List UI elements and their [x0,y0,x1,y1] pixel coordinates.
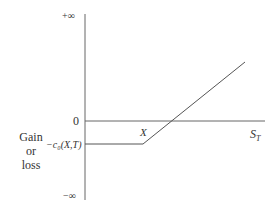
y-tick-zero: 0 [73,115,79,127]
y-tick-plus-infinity: +∞ [62,10,75,22]
payoff-line [85,62,245,144]
y-axis-label-line-3: loss [14,158,48,172]
payoff-diagram [0,0,278,210]
y-tick-minus-infinity: −∞ [63,190,76,202]
y-axis-label-line-1: Gain [14,130,48,144]
strike-label: X [140,126,147,138]
x-axis-label: ST [250,128,260,145]
y-axis-label-line-2: or [14,144,48,158]
y-axis-label: Gain or loss [14,130,48,172]
y-tick-premium: −c₀(X,T) [46,139,82,151]
